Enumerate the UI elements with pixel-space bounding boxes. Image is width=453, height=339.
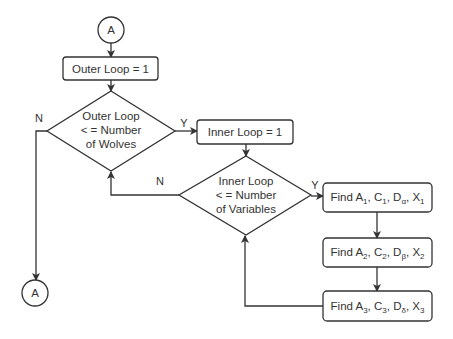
flowchart-canvas: A Outer Loop = 1 Outer Loop < = Number o… [0, 0, 453, 339]
outer-loop-init-box: Outer Loop = 1 [63, 57, 158, 80]
inner-cond-line-2: < = Number [216, 189, 277, 201]
outer-loop-condition-diamond: Outer Loop < = Number of Wolves [47, 91, 175, 171]
outer-cond-line-2: < = Number [81, 124, 142, 136]
inner-cond-line-1: Inner Loop [219, 175, 274, 187]
outer-cond-line-3: of Wolves [86, 138, 137, 150]
outer-loop-init-label: Outer Loop = 1 [72, 63, 149, 75]
inner-yes-label: Y [311, 179, 319, 191]
end-connector: A [22, 280, 48, 306]
find-step-3-box: Find A3, C3, Dδ, X3 [323, 291, 432, 321]
find-step-1-box: Find A1, C1, Dα, X1 [323, 183, 432, 212]
edge-outer-no [36, 131, 47, 280]
inner-loop-init-label: Inner Loop = 1 [208, 126, 283, 138]
edge-inner-no [111, 172, 179, 195]
inner-no-label: N [156, 175, 164, 187]
edge-find3-loop-back [245, 236, 323, 306]
outer-yes-label: Y [180, 117, 188, 129]
outer-cond-line-1: Outer Loop [82, 110, 140, 122]
inner-cond-line-3: of Variables [216, 203, 276, 215]
start-connector: A [98, 17, 124, 43]
end-connector-label: A [31, 287, 39, 299]
start-connector-label: A [107, 24, 115, 36]
outer-no-label: N [35, 112, 43, 124]
inner-loop-condition-diamond: Inner Loop < = Number of Variables [179, 156, 311, 235]
find-step-2-box: Find A2, C2, Dβ, X2 [323, 238, 432, 267]
inner-loop-init-box: Inner Loop = 1 [197, 120, 293, 144]
